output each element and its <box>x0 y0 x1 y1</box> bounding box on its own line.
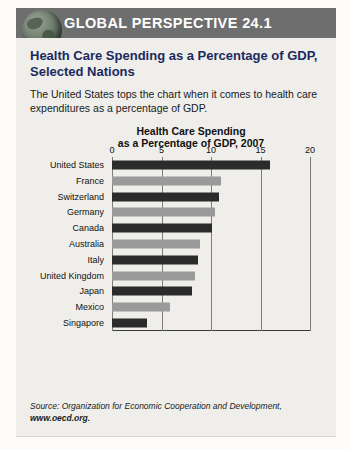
category-label: Australia <box>69 239 104 249</box>
source-line-1: Source: Organization for Economic Cooper… <box>30 401 282 411</box>
y-axis-category-labels: United StatesFranceSwitzerlandGermanyCan… <box>26 157 108 331</box>
plot-area <box>112 157 310 331</box>
chart-title-line1: Health Care Spending <box>56 125 326 137</box>
gridline <box>261 157 262 331</box>
category-label: Italy <box>87 255 104 265</box>
x-tick-label: 20 <box>305 145 315 155</box>
bar <box>112 303 170 312</box>
x-tick-label: 15 <box>255 145 265 155</box>
category-label: Switzerland <box>57 192 104 202</box>
header-title: GLOBAL PERSPECTIVE 24.1 <box>64 15 272 31</box>
category-label: France <box>76 176 104 186</box>
bar <box>112 192 219 201</box>
category-label: Singapore <box>63 318 104 328</box>
bar <box>112 319 147 328</box>
bar <box>112 208 215 217</box>
gridline <box>310 157 311 331</box>
category-label: Mexico <box>75 302 104 312</box>
category-label: United Kingdom <box>40 271 104 281</box>
bar <box>112 240 200 249</box>
bar <box>112 271 195 280</box>
bar-chart: Health Care Spending as a Percentage of … <box>26 125 326 345</box>
intro-paragraph: The United States tops the chart when it… <box>30 87 322 115</box>
x-tick-label: 10 <box>206 145 216 155</box>
content-panel: Health Care Spending as a Percentage of … <box>16 38 336 437</box>
category-label: United States <box>50 160 104 170</box>
bar <box>112 255 198 264</box>
bar <box>112 287 192 296</box>
x-tick-label: 0 <box>109 145 114 155</box>
x-tick-label: 5 <box>159 145 164 155</box>
x-axis-tick-labels: 05101520 <box>112 145 310 157</box>
global-perspective-figure: GLOBAL PERSPECTIVE 24.1 Health Care Spen… <box>0 0 350 450</box>
source-note: Source: Organization for Economic Cooper… <box>30 400 322 424</box>
header-bar: GLOBAL PERSPECTIVE 24.1 <box>16 8 336 38</box>
page-title: Health Care Spending as a Percentage of … <box>30 48 322 79</box>
bar <box>112 224 212 233</box>
source-url: www.oecd.org. <box>30 413 90 423</box>
bar <box>112 160 270 169</box>
category-label: Canada <box>72 223 104 233</box>
category-label: Germany <box>67 207 104 217</box>
bar <box>112 176 221 185</box>
category-label: Japan <box>79 286 104 296</box>
